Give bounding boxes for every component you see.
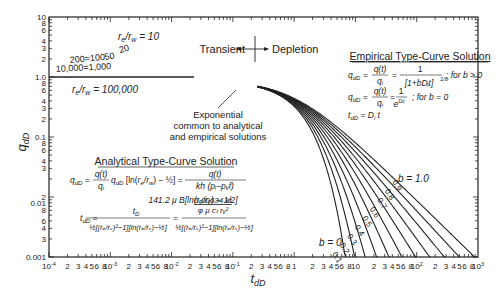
- x-axis-label: tdD: [250, 271, 266, 288]
- analytical-solution-block: Analytical Type-Curve Solution qdD = q(t…: [70, 155, 254, 232]
- x-tick-label: 10-4: [42, 261, 56, 271]
- x-tick-label: 4: [268, 262, 273, 271]
- x-tick-label: 4: [451, 262, 456, 271]
- y-tick-label: 4: [42, 224, 47, 233]
- x-tick-label: 6: [401, 262, 406, 271]
- empirical-eq1-num: 1: [418, 64, 423, 74]
- y-tick-label: 2: [42, 55, 47, 64]
- empirical-eq1-qt: q(t): [374, 64, 387, 74]
- depletion-curve-b-0.7: [257, 86, 430, 257]
- y-axis-label: qdD: [14, 132, 31, 151]
- analytical-eq2-eq: =: [173, 213, 178, 223]
- x-tick-labels: 10-423456810-323456810-223456810-1234568…: [42, 261, 484, 271]
- x-tick-label: 10-3: [103, 261, 117, 271]
- b-1-label: b = 1.0: [398, 173, 429, 184]
- empirical-eq2-cond: ; for b = 0: [412, 92, 448, 102]
- x-tick-label: 4: [390, 262, 395, 271]
- y-tick-label: 6: [42, 86, 47, 95]
- analytical-eq2-rhs-num-bot: φ μ cₜ rᵥ²: [198, 206, 229, 215]
- empirical-eq2-lhs: qdD =: [348, 92, 368, 103]
- x-tick-label: 10-1: [226, 261, 240, 271]
- x-tick-label: 3: [260, 262, 265, 271]
- y-tick-label: 6: [42, 146, 47, 155]
- analytical-eq1-qi: qi: [98, 181, 105, 191]
- x-tick-label: 3: [444, 262, 449, 271]
- type-curve-chart: 10-423456810-323456810-223456810-1234568…: [0, 0, 499, 304]
- analytical-eq2-num: tD: [133, 206, 140, 217]
- y-tick-label: 0.001: [26, 253, 47, 262]
- x-tick-label: 2: [372, 262, 377, 271]
- y-tick-label: 3: [42, 164, 47, 173]
- x-tick-label: 3: [382, 262, 387, 271]
- x-tick-label: 103: [472, 261, 484, 271]
- transient-depletion-arrow-icon: [236, 36, 269, 62]
- empirical-eq1-qi: qi: [377, 76, 384, 86]
- analytical-eq1-lhs: qdD =: [70, 175, 90, 186]
- y-tick-label: 8: [42, 206, 47, 215]
- x-tick-label: 1: [292, 262, 297, 271]
- x-tick-label: 6: [217, 262, 222, 271]
- analytical-eq2-rhs-den: ½[(rₑ/rᵥ)²−1][ln(rₑ/rᵥ)−½]: [175, 223, 253, 232]
- x-tick-label: 6: [278, 262, 283, 271]
- empirical-title: Empirical Type-Curve Solution: [349, 50, 490, 62]
- empirical-eq2-e: eDᵢt: [394, 98, 405, 109]
- analytical-eq1-rhs-den1: kh (pᵢ−pᵥf): [196, 181, 234, 191]
- x-tick-label: 4: [84, 262, 89, 271]
- empirical-eq1-eq: =: [392, 70, 397, 80]
- x-tick-label: 2: [188, 262, 193, 271]
- analytical-eq2-rhs-num-top: 0.00634 kt: [194, 196, 232, 205]
- x-tick-label: 10: [351, 262, 360, 271]
- x-tick-label: 4: [329, 262, 334, 271]
- empirical-eq2-one: 1: [399, 86, 404, 96]
- empirical-eq1-den: [1+bDᵢt]: [404, 78, 434, 88]
- x-tick-label: 6: [340, 262, 345, 271]
- analytical-eq1-rhs-num: q(t): [209, 169, 222, 179]
- re-rw-20-label: 20: [118, 43, 130, 55]
- re-rw-10000-1000-label: 10,000=1,000: [56, 61, 112, 74]
- exponential-label-1: Exponential: [193, 109, 243, 120]
- depletion-label: Depletion: [272, 43, 318, 55]
- analytical-eq2-den: ½[(rₑ/rᵥ)²−1][ln(rₑ/rᵥ)−½]: [89, 223, 167, 232]
- re-rw-10-label: re/rw = 10: [118, 31, 159, 43]
- y-tick-label: 3: [42, 104, 47, 113]
- analytical-eq1-qt: q(t): [95, 169, 108, 179]
- x-tick-label: 3: [137, 262, 142, 271]
- exponential-label-3: and empirical solutions: [170, 131, 267, 142]
- empirical-eq3: tdD = Di t: [348, 110, 381, 121]
- x-tick-label: 3: [321, 262, 326, 271]
- x-tick-label: 6: [156, 262, 161, 271]
- x-tick-label: 4: [145, 262, 150, 271]
- x-tick-label: 6: [462, 262, 467, 271]
- exponential-pointer-arrow-icon: [218, 90, 236, 108]
- empirical-eq2-qi: qi: [377, 98, 384, 108]
- x-tick-label: 2: [65, 262, 70, 271]
- empirical-eq1-cond: ; for b > 0: [446, 70, 482, 80]
- x-tick-label: 3: [199, 262, 204, 271]
- y-tick-label: 3: [42, 235, 47, 244]
- x-tick-label: 2: [249, 262, 254, 271]
- empirical-eq1-lhs: qdD =: [348, 70, 368, 81]
- y-tick-label: 2: [42, 115, 47, 124]
- y-tick-label: 6: [42, 26, 47, 35]
- x-tick-label: 2: [433, 262, 438, 271]
- analytical-eq1-mid: qdD [ln(re/rw) − ½] =: [111, 175, 183, 186]
- x-tick-label: 10-2: [165, 261, 179, 271]
- exponential-label-2: common to analytical: [173, 120, 262, 131]
- x-tick-label: 4: [206, 262, 211, 271]
- empirical-solution-block: Empirical Type-Curve Solution qdD = q(t)…: [348, 50, 491, 121]
- re-rw-100000-label: re/rw = 100,000: [72, 84, 138, 96]
- x-tick-label: 6: [94, 262, 99, 271]
- y-tick-label: 3: [42, 44, 47, 53]
- x-tick-label: 3: [76, 262, 81, 271]
- empirical-eq2-qt: q(t): [374, 86, 387, 96]
- x-tick-label: 2: [310, 262, 315, 271]
- x-tick-label: 8: [286, 262, 291, 271]
- x-tick-label: 2: [127, 262, 132, 271]
- x-tick-label: 102: [411, 261, 423, 271]
- analytical-title: Analytical Type-Curve Solution: [95, 155, 238, 167]
- depletion-curve-b-0.8: [257, 86, 445, 257]
